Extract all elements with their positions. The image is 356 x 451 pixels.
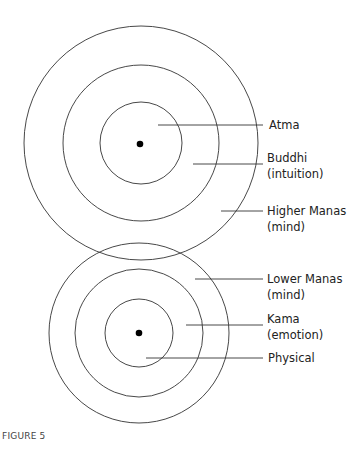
lower-figure [49, 243, 263, 423]
upper-figure [24, 26, 263, 260]
label-physical: Physical [268, 350, 315, 366]
label-physical-text: Physical [268, 350, 315, 366]
label-buddhi-text: Buddhi [267, 150, 323, 166]
label-atma: Atma [269, 117, 299, 133]
lower-center-dot [136, 330, 143, 337]
upper-center-dot [137, 141, 144, 148]
label-kama: Kama (emotion) [267, 311, 323, 343]
label-buddhi: Buddhi (intuition) [267, 150, 323, 182]
label-buddhi-subtext: (intuition) [267, 166, 323, 182]
figure-caption: FIGURE 5 [2, 431, 46, 441]
label-atma-text: Atma [269, 117, 299, 133]
label-lower-manas-text: Lower Manas [267, 271, 342, 287]
label-kama-text: Kama [267, 311, 323, 327]
label-lower-manas: Lower Manas (mind) [267, 271, 342, 303]
label-lower-manas-subtext: (mind) [267, 287, 342, 303]
label-kama-subtext: (emotion) [267, 327, 323, 343]
label-higher-manas-text: Higher Manas [267, 203, 346, 219]
label-higher-manas-subtext: (mind) [267, 219, 346, 235]
label-higher-manas: Higher Manas (mind) [267, 203, 346, 235]
